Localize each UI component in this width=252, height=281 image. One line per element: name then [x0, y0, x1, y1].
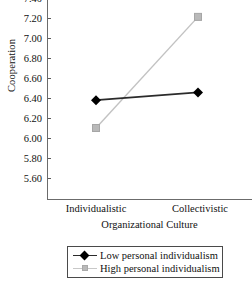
- y-tick-label: 6.80: [12, 54, 42, 64]
- legend-item-label: Low personal individualism: [98, 250, 218, 261]
- y-tick-label: 6.40: [12, 94, 42, 104]
- series-line: [96, 17, 198, 128]
- series-line: [96, 92, 198, 100]
- data-point-marker: [193, 87, 203, 97]
- legend-square-marker-icon: [72, 263, 98, 275]
- y-axis-line: [47, 0, 48, 199]
- legend-item-label: High personal individualism: [98, 263, 220, 274]
- legend-box: Low personal individualism High personal…: [67, 246, 223, 278]
- data-point-marker: [195, 13, 202, 20]
- series-high-personal-individualism: [93, 13, 202, 131]
- y-tick-label: 7.40: [12, 0, 42, 4]
- legend-item-low-personal-individualism: Low personal individualism: [68, 249, 222, 262]
- legend-diamond-marker-icon: [72, 250, 98, 262]
- y-tick-label: 6.20: [12, 114, 42, 124]
- y-tick-label: 5.80: [12, 154, 42, 164]
- x-axis-title: Organizational Culture: [47, 219, 252, 230]
- y-tick-label: 5.60: [12, 174, 42, 184]
- x-axis-line: [47, 199, 252, 200]
- y-tick-label: 6.60: [12, 74, 42, 84]
- interaction-plot-figure: Cooperation 7.40 7.20 7.00 6.80 6.60 6.4…: [0, 0, 252, 281]
- y-tick-label: 7.20: [12, 14, 42, 24]
- legend-item-high-personal-individualism: High personal individualism: [68, 262, 222, 275]
- data-point-marker: [93, 125, 100, 132]
- series-low-personal-individualism: [91, 87, 203, 105]
- data-point-marker: [91, 95, 101, 105]
- x-tick-label-individualistic: Individualistic: [36, 203, 156, 214]
- x-tick-label-collectivistic: Collectivistic: [140, 203, 252, 214]
- y-tick-label: 7.00: [12, 34, 42, 44]
- y-tick-label: 6.00: [12, 134, 42, 144]
- y-axis-tick-labels: 7.40 7.20 7.00 6.80 6.60 6.40 6.20 6.00 …: [8, 0, 42, 281]
